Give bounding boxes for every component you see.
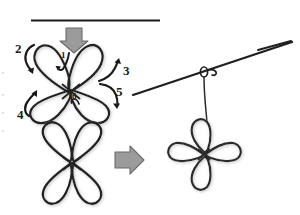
hanging-flower xyxy=(168,119,240,189)
motion-arrow-2 xyxy=(25,45,34,74)
lower-flower xyxy=(43,122,101,203)
upper-flower xyxy=(30,45,109,123)
diagram-artwork xyxy=(0,0,300,215)
diagram-canvas: 1 2 3 4 5 6 xyxy=(0,0,300,215)
hanging-string xyxy=(204,77,207,122)
right-arrow-icon xyxy=(115,146,144,174)
scan-speckles xyxy=(2,72,4,132)
step-label-2: 2 xyxy=(15,42,22,55)
step-label-3: 3 xyxy=(123,64,130,77)
diagonal-line xyxy=(133,41,292,95)
step-label-6: 6 xyxy=(72,92,77,101)
step-label-1: 1 xyxy=(61,51,66,60)
step-label-4: 4 xyxy=(17,108,24,121)
step-label-5: 5 xyxy=(116,85,123,98)
